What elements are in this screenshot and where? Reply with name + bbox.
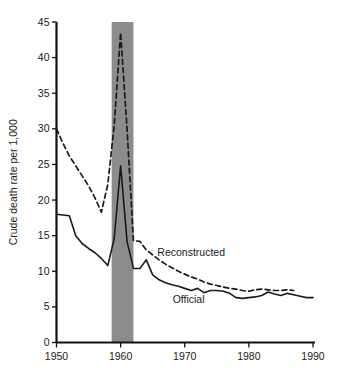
y-tick-label: 0: [44, 336, 50, 348]
x-tick-label: 1960: [109, 350, 133, 362]
x-tick-label: 1970: [173, 350, 197, 362]
y-tick-label: 25: [38, 158, 50, 170]
y-tick-label: 30: [38, 122, 50, 134]
annotation-reconstructed: Reconstructed: [157, 246, 225, 258]
y-tick-label: 45: [38, 16, 50, 28]
x-tick-label: 1980: [237, 350, 261, 362]
annotation-official: Official: [173, 293, 205, 305]
y-tick-label: 20: [38, 194, 50, 206]
y-tick-label: 10: [38, 265, 50, 277]
x-axis: 19501960197019801990: [45, 343, 325, 362]
y-tick-label: 5: [44, 300, 50, 312]
series-line-official: [57, 166, 314, 298]
y-tick-label: 40: [38, 51, 50, 63]
y-axis: 051015202530354045: [38, 16, 57, 349]
x-tick-label: 1950: [45, 350, 69, 362]
chart-plot-area: 051015202530354045 19501960197019801990 …: [0, 0, 340, 375]
x-tick-label: 1990: [301, 350, 325, 362]
y-axis-title-text: Crude death rate per 1,000: [7, 119, 19, 245]
series-lines: [57, 33, 314, 299]
y-axis-title: Crude death rate per 1,000: [7, 119, 19, 245]
y-tick-label: 35: [38, 87, 50, 99]
y-tick-label: 15: [38, 229, 50, 241]
series-annotations: ReconstructedOfficial: [157, 246, 225, 305]
crude-death-rate-chart: 051015202530354045 19501960197019801990 …: [0, 0, 340, 375]
